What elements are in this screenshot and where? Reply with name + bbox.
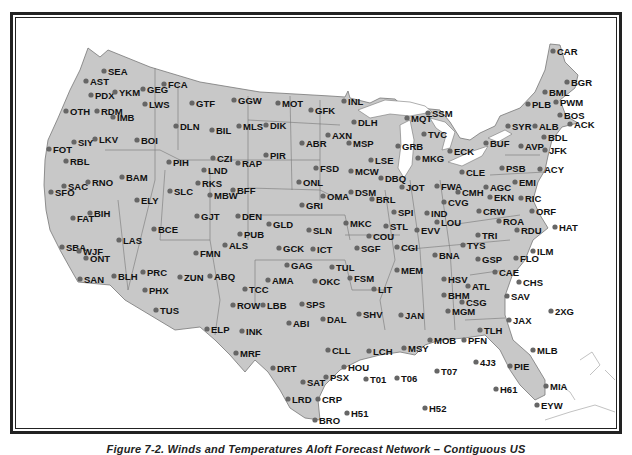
station-label: FCA	[168, 79, 188, 90]
station-dot	[532, 123, 537, 128]
station-dot	[308, 107, 313, 112]
station-label: BIL	[216, 125, 232, 136]
station-label: ATL	[472, 281, 490, 292]
station-dot	[552, 224, 557, 229]
station-dot	[455, 189, 460, 194]
station-label: SPS	[306, 299, 325, 310]
station-dot	[207, 192, 212, 197]
station-label: RNO	[92, 177, 113, 188]
station-dot	[394, 267, 399, 272]
station-label: FSM	[354, 273, 374, 284]
station-dot	[424, 210, 429, 215]
station-label: ELP	[211, 324, 230, 335]
station-dot	[242, 286, 247, 291]
station-dot	[504, 293, 509, 298]
station-dot	[414, 227, 419, 232]
station-dot	[77, 276, 82, 281]
station-label: T01	[370, 374, 387, 385]
station-marker: SAV	[504, 291, 530, 302]
station-label: BUF	[490, 138, 510, 149]
station-label: PDX	[95, 90, 115, 101]
station-label: INL	[348, 96, 364, 107]
station-label: ONL	[303, 177, 323, 188]
station-label: MQT	[411, 113, 432, 124]
station-marker: 4J3	[473, 357, 495, 368]
station-dot	[310, 246, 315, 251]
station-label: T07	[441, 366, 457, 377]
station-label: SSM	[432, 108, 453, 119]
station-dot	[134, 137, 139, 142]
station-label: COU	[373, 231, 394, 242]
station-dot	[518, 143, 523, 148]
station-label: MSP	[353, 138, 374, 149]
station-dot	[461, 337, 466, 342]
station-dot	[119, 174, 124, 179]
station-label: 4J3	[480, 357, 496, 368]
station-label: JAX	[513, 315, 532, 326]
station-dot	[475, 232, 480, 237]
station-label: MKC	[350, 218, 372, 229]
station-dot	[134, 197, 139, 202]
station-label: H52	[429, 403, 446, 414]
station-label: ELY	[141, 195, 159, 206]
station-marker: T01	[363, 374, 387, 385]
station-label: ROW	[237, 300, 260, 311]
station-label: BOI	[141, 135, 158, 146]
station-label: HOU	[348, 362, 369, 373]
station-label: TYS	[467, 240, 485, 251]
station-marker: H51	[344, 408, 369, 419]
station-dot	[266, 221, 271, 226]
station-dot	[459, 299, 464, 304]
station-dot	[59, 244, 64, 249]
station-dot	[534, 402, 539, 407]
station-dot	[140, 86, 145, 91]
station-dot	[112, 89, 117, 94]
station-label: TUL	[336, 262, 355, 273]
station-label: MRF	[240, 348, 261, 359]
station-dot	[366, 233, 371, 238]
station-dot	[477, 327, 482, 332]
station-label: DEN	[242, 211, 262, 222]
station-label: PUB	[244, 229, 264, 240]
station-label: AXN	[332, 130, 352, 141]
station-dot	[394, 375, 399, 380]
station-dot	[194, 213, 199, 218]
station-label: IND	[431, 208, 448, 219]
station-dot	[325, 132, 330, 137]
station-dot	[286, 320, 291, 325]
station-label: CVG	[448, 197, 469, 208]
station-dot	[151, 226, 156, 231]
station-label: BRO	[319, 415, 340, 426]
station-dot	[83, 78, 88, 83]
station-dot	[222, 242, 227, 247]
station-dot	[513, 255, 518, 260]
station-dot	[189, 100, 194, 105]
station-dot	[415, 155, 420, 160]
station-label: ILM	[537, 246, 553, 257]
station-dot	[493, 386, 498, 391]
station-dot	[329, 264, 334, 269]
station-dot	[236, 123, 241, 128]
station-dot	[153, 307, 158, 312]
station-dot	[48, 189, 53, 194]
station-dot	[230, 302, 235, 307]
station-dot	[299, 140, 304, 145]
station-label: ORF	[536, 206, 556, 217]
station-marker: JAX	[506, 315, 532, 326]
station-label: SIY	[78, 137, 94, 148]
station-dot	[111, 273, 116, 278]
station-dot	[296, 179, 301, 184]
station-dot	[300, 379, 305, 384]
station-dot	[140, 269, 145, 274]
station-label: LKV	[99, 134, 119, 145]
station-label: RDU	[521, 225, 542, 236]
station-marker: H61	[493, 384, 518, 395]
station-label: INK	[246, 326, 263, 337]
station-dot	[422, 405, 427, 410]
station-dot	[564, 79, 569, 84]
station-dot	[356, 311, 361, 316]
station-dot	[541, 134, 546, 139]
station-label: SAT	[307, 377, 325, 388]
station-dot	[499, 165, 504, 170]
station-label: OTH	[70, 106, 90, 117]
